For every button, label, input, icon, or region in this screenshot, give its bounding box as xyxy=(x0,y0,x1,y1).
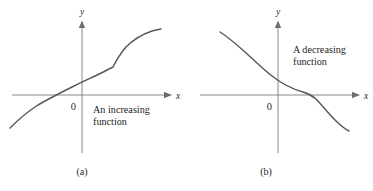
panel-b-annotation-line1: A decreasing xyxy=(293,44,346,55)
panel-b-x-axis-arrow-icon xyxy=(352,92,360,98)
panel-a-annotation-line2: function xyxy=(93,116,127,127)
figure-svg: x y 0 An increasing function (a) x y xyxy=(0,0,373,191)
panel-a-x-axis-label: x xyxy=(175,91,181,101)
panel-b-y-axis-arrow-icon xyxy=(275,21,281,29)
panel-b-annotation-line2: function xyxy=(293,56,327,67)
panel-a: x y 0 An increasing function (a) xyxy=(10,7,181,179)
panel-b-origin-label: 0 xyxy=(267,101,272,112)
panel-b: x y 0 A decreasing function (b) xyxy=(200,7,369,179)
panel-a-y-axis-arrow-icon xyxy=(79,21,85,29)
panel-a-annotation-line1: An increasing xyxy=(93,104,150,115)
panel-b-x-axis-label: x xyxy=(363,91,369,101)
panel-b-caption: (b) xyxy=(260,166,272,178)
panel-a-y-axis-label: y xyxy=(79,7,85,17)
panel-a-x-axis-arrow-icon xyxy=(164,92,172,98)
figure-container: x y 0 An increasing function (a) x y xyxy=(0,0,373,191)
panel-a-origin-label: 0 xyxy=(71,101,76,112)
panel-a-caption: (a) xyxy=(76,166,87,178)
panel-b-y-axis-label: y xyxy=(275,7,281,17)
